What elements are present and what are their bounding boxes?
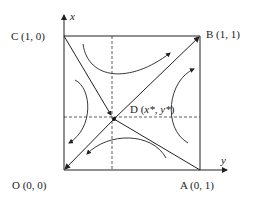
point-d-prefix: D ( bbox=[130, 103, 144, 115]
equilibrium-point-d bbox=[112, 117, 116, 121]
trajectory-bottom bbox=[87, 138, 166, 158]
trajectory-right bbox=[171, 69, 194, 143]
trajectory-left bbox=[69, 80, 88, 143]
saddle-path-a-to-d bbox=[114, 119, 200, 170]
y-axis-label: y bbox=[221, 155, 226, 166]
path-d-to-o bbox=[65, 119, 114, 169]
point-a-label: A (0, 1) bbox=[180, 180, 214, 191]
point-d-y: y* bbox=[160, 103, 170, 115]
point-o-label: O (0, 0) bbox=[12, 180, 47, 191]
phase-diagram: x y C (1, 0) B (1, 1) O (0, 0) A (0, 1) … bbox=[0, 0, 263, 198]
point-b-label: B (1, 1) bbox=[206, 29, 240, 40]
trajectory-top bbox=[83, 44, 170, 74]
point-d-x: x* bbox=[144, 103, 154, 115]
point-d-label: D (x*, y*) bbox=[130, 104, 174, 115]
x-axis-label: x bbox=[70, 11, 75, 22]
point-c-label: C (1, 0) bbox=[11, 31, 45, 42]
point-d-suffix: ) bbox=[171, 103, 175, 115]
